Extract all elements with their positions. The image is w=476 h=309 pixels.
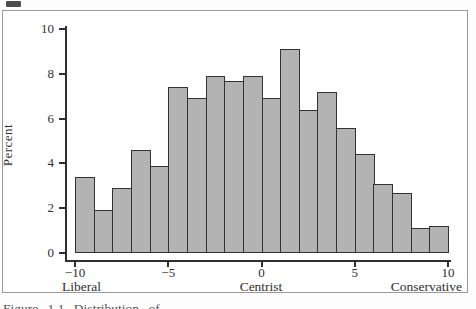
x-tick-label: 10 [428, 266, 468, 280]
x-axis-annotation-liberal: Liberal [62, 279, 101, 294]
y-tick-label: 8 [28, 67, 54, 81]
histogram-bar [112, 188, 132, 253]
y-tick-mark [59, 252, 66, 254]
histogram-bar [392, 193, 412, 253]
histogram-bar [299, 110, 319, 253]
x-axis-annotation-centrist: Centrist [161, 279, 361, 294]
histogram-bar [243, 76, 263, 253]
y-axis-title: Percent [0, 100, 16, 190]
y-tick-label: 0 [28, 246, 54, 260]
histogram-bar [168, 87, 188, 253]
x-tick-label: 5 [335, 266, 375, 280]
y-tick-label: 6 [28, 112, 54, 126]
y-tick-mark [59, 73, 66, 75]
x-axis-line [65, 260, 451, 262]
x-tick-label: 0 [242, 266, 282, 280]
histogram-bar [206, 76, 226, 253]
histogram-bar [411, 228, 431, 253]
histogram-bar [94, 210, 114, 253]
x-tick-label: −5 [148, 266, 188, 280]
y-tick-label: 4 [28, 156, 54, 170]
histogram-bar [317, 92, 337, 253]
histogram-bar [355, 154, 375, 253]
y-tick-mark [59, 162, 66, 164]
histogram-bar [336, 128, 356, 253]
histogram-bar [187, 98, 207, 253]
x-tick-label: −10 [55, 266, 95, 280]
histogram-bar [224, 81, 244, 253]
y-tick-label: 2 [28, 201, 54, 215]
histogram-bar [131, 150, 151, 253]
histogram-bar [429, 226, 449, 253]
cropped-caption-text: Figure 1.1 Distribution of … [3, 301, 473, 309]
y-tick-mark [59, 118, 66, 120]
y-tick-mark [59, 207, 66, 209]
histogram-bar [280, 49, 300, 253]
y-tick-label: 10 [28, 22, 54, 36]
x-axis-annotation-conservative: Conservative [391, 279, 462, 294]
page-edge-artifact [6, 1, 21, 7]
histogram-bar [373, 184, 393, 253]
y-axis-line [65, 26, 67, 262]
scanned-figure-page: Percent 0246810 −10−50510 Liberal Centri… [0, 0, 476, 309]
histogram-bar [75, 177, 95, 253]
y-tick-mark [59, 28, 66, 30]
histogram-bar [150, 166, 170, 253]
histogram-bar [262, 98, 282, 253]
